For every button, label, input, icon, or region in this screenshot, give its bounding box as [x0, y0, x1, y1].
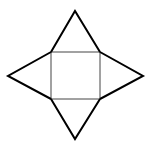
- pyramid-net-diagram: [0, 0, 151, 152]
- triangle-top: [51, 11, 100, 52]
- net-svg: [0, 0, 151, 152]
- square-base: [51, 52, 100, 99]
- triangle-left: [8, 52, 51, 99]
- triangle-right: [100, 52, 143, 99]
- triangle-bottom: [51, 99, 100, 139]
